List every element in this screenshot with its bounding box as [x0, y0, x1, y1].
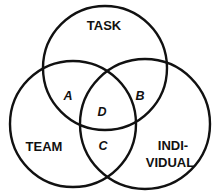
venn-svg: TASK TEAM INDI- VIDUAL A B D C	[0, 0, 217, 193]
region-b-label: B	[135, 89, 144, 103]
team-label: TEAM	[26, 139, 63, 154]
region-c-label: C	[98, 139, 108, 153]
region-a-label: A	[62, 89, 72, 103]
individual-label-line1: INDI-	[158, 138, 188, 153]
task-label: TASK	[87, 18, 122, 33]
individual-label-line2: VIDUAL	[146, 155, 194, 170]
team-circle	[10, 61, 136, 187]
venn-diagram: TASK TEAM INDI- VIDUAL A B D C	[0, 0, 217, 193]
region-d-label: D	[97, 105, 106, 119]
